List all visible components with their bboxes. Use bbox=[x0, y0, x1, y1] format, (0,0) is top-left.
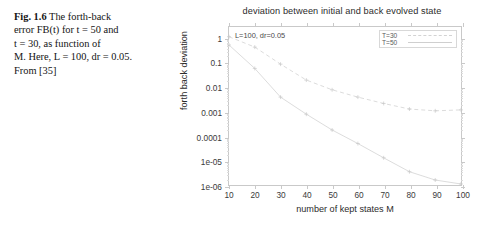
y-minor-tick bbox=[461, 44, 463, 45]
y-tick-label: 0.01 bbox=[206, 83, 222, 93]
y-minor-tick bbox=[461, 151, 463, 152]
figure-caption: Fig. 1.6 The forth-back error FB(t) for … bbox=[14, 10, 164, 77]
x-tick bbox=[359, 185, 360, 189]
x-tick bbox=[281, 185, 282, 189]
y-minor-tick bbox=[227, 180, 229, 181]
y-minor-tick bbox=[227, 114, 229, 115]
x-tick bbox=[385, 23, 386, 27]
y-minor-tick bbox=[227, 56, 229, 57]
y-minor-tick bbox=[461, 130, 463, 131]
y-minor-tick bbox=[461, 140, 463, 141]
y-minor-tick bbox=[227, 66, 229, 67]
y-minor-tick bbox=[227, 120, 229, 121]
caption-line-1: The forth-back bbox=[49, 11, 111, 22]
y-minor-tick bbox=[227, 145, 229, 146]
x-tick bbox=[437, 185, 438, 189]
y-minor-tick bbox=[227, 151, 229, 152]
y-minor-tick bbox=[461, 46, 463, 47]
y-minor-tick bbox=[461, 67, 463, 68]
x-tick bbox=[255, 23, 256, 27]
y-minor-tick bbox=[461, 163, 463, 164]
y-minor-tick bbox=[461, 98, 463, 99]
x-axis-title: number of kept states M bbox=[228, 204, 462, 214]
x-tick bbox=[229, 23, 230, 27]
x-tick bbox=[411, 185, 412, 189]
y-minor-tick bbox=[227, 52, 229, 53]
x-tick bbox=[463, 185, 464, 189]
x-tick-label: 40 bbox=[302, 190, 311, 200]
y-minor-tick bbox=[227, 130, 229, 131]
y-minor-tick bbox=[461, 123, 463, 124]
x-tick bbox=[411, 23, 412, 27]
y-minor-tick bbox=[461, 101, 463, 102]
chart-title: deviation between initial and back evolv… bbox=[211, 6, 473, 16]
y-minor-tick bbox=[227, 67, 229, 68]
y-minor-tick bbox=[461, 166, 463, 167]
y-minor-tick bbox=[227, 165, 229, 166]
figure-number: Fig. 1.6 bbox=[14, 11, 47, 22]
y-minor-tick bbox=[461, 143, 463, 144]
x-tick-label: 20 bbox=[250, 190, 259, 200]
x-tick-label: 10 bbox=[224, 190, 233, 200]
y-minor-tick bbox=[461, 40, 463, 41]
y-minor-tick bbox=[227, 91, 229, 92]
y-minor-tick bbox=[461, 66, 463, 67]
caption-line-3: t = 30, as function of bbox=[14, 38, 101, 49]
plot-area: L=100, dr=0.05 T=30 T=50 10.10.010.0010.… bbox=[228, 26, 462, 186]
chart-curves bbox=[229, 27, 461, 185]
y-minor-tick bbox=[461, 147, 463, 148]
y-minor-tick bbox=[461, 172, 463, 173]
y-minor-tick bbox=[227, 89, 229, 90]
y-minor-tick bbox=[461, 43, 463, 44]
x-tick bbox=[307, 23, 308, 27]
x-tick-label: 90 bbox=[432, 190, 441, 200]
x-tick bbox=[333, 185, 334, 189]
y-minor-tick bbox=[227, 143, 229, 144]
y-minor-tick bbox=[227, 175, 229, 176]
x-tick-label: 30 bbox=[276, 190, 285, 200]
y-minor-tick bbox=[461, 141, 463, 142]
y-minor-tick bbox=[461, 49, 463, 50]
y-minor-tick bbox=[461, 139, 463, 140]
caption-line-2: error FB(t) for t = 50 and bbox=[14, 24, 119, 35]
caption-line-4: M. Here, L = 100, dr = 0.05. bbox=[14, 51, 132, 62]
y-minor-tick bbox=[227, 139, 229, 140]
y-minor-tick bbox=[227, 65, 229, 66]
y-tick-label: 1e-05 bbox=[201, 157, 222, 167]
y-minor-tick bbox=[227, 168, 229, 169]
y-tick-label: 0.1 bbox=[210, 58, 222, 68]
x-tick-label: 50 bbox=[328, 190, 337, 200]
y-minor-tick bbox=[227, 170, 229, 171]
y-minor-tick bbox=[461, 180, 463, 181]
y-minor-tick bbox=[227, 96, 229, 97]
y-minor-tick bbox=[227, 117, 229, 118]
y-minor-tick bbox=[461, 56, 463, 57]
y-tick-label: 1e-06 bbox=[201, 182, 222, 192]
y-tick-label: 0.001 bbox=[201, 108, 222, 118]
y-minor-tick bbox=[227, 147, 229, 148]
y-minor-tick bbox=[461, 168, 463, 169]
y-minor-tick bbox=[461, 73, 463, 74]
y-minor-tick bbox=[461, 105, 463, 106]
y-minor-tick bbox=[227, 94, 229, 95]
y-minor-tick bbox=[461, 81, 463, 82]
series-t50-line bbox=[229, 45, 461, 184]
y-minor-tick bbox=[227, 141, 229, 142]
y-minor-tick bbox=[227, 123, 229, 124]
x-tick-label: 100 bbox=[456, 190, 470, 200]
y-minor-tick bbox=[461, 145, 463, 146]
y-minor-tick bbox=[227, 92, 229, 93]
y-minor-tick bbox=[461, 155, 463, 156]
caption-line-5: From [35] bbox=[14, 65, 56, 76]
y-minor-tick bbox=[461, 69, 463, 70]
y-minor-tick bbox=[461, 115, 463, 116]
y-minor-tick bbox=[227, 81, 229, 82]
y-minor-tick bbox=[227, 163, 229, 164]
y-minor-tick bbox=[227, 43, 229, 44]
y-minor-tick bbox=[461, 94, 463, 95]
y-minor-tick bbox=[227, 118, 229, 119]
x-tick bbox=[437, 23, 438, 27]
y-minor-tick bbox=[227, 71, 229, 72]
y-minor-tick bbox=[461, 165, 463, 166]
y-minor-tick bbox=[461, 117, 463, 118]
